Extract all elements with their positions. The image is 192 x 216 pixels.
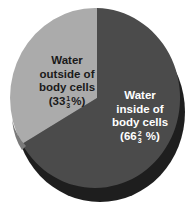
label-outside: Water outside of body cells (3313%) (28, 54, 106, 109)
label-inside: Water inside of body cells (6623 %) (100, 89, 180, 144)
